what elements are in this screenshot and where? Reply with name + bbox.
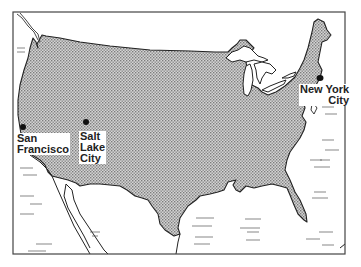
city-label-line: City: [80, 153, 105, 164]
city-label-line: Francisco: [17, 144, 69, 155]
city-label-san-francisco: San Francisco: [16, 133, 70, 155]
city-label-new-york-city: New York City: [299, 84, 350, 106]
city-dot-icon: [20, 124, 26, 130]
city-label-line: City: [300, 95, 349, 106]
city-dot-icon: [83, 119, 89, 125]
city-dot-icon: [317, 75, 324, 81]
city-label-salt-lake-city: Salt Lake City: [79, 131, 106, 164]
